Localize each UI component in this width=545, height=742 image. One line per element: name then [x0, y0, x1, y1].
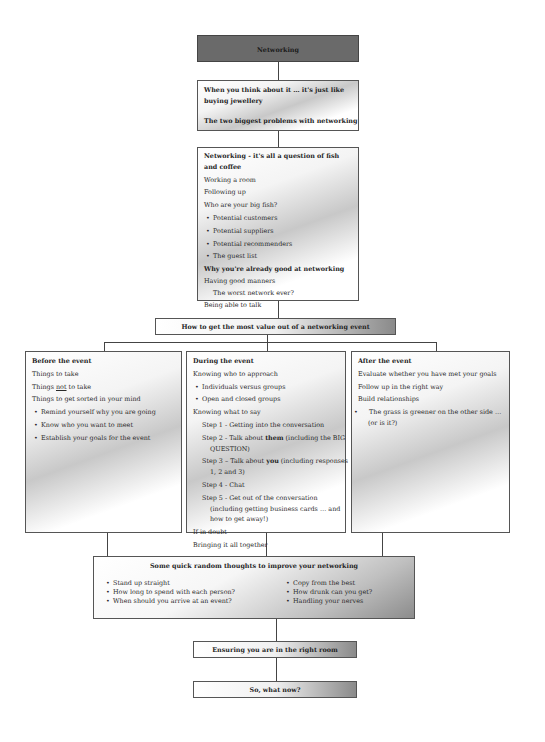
- connector-before-random: [107, 533, 108, 556]
- before-item-not-underlined: not: [56, 383, 67, 391]
- after-item: Evaluate whether you have met your goals: [358, 369, 505, 380]
- random-thoughts-box: Some quick random thoughts to improve yo…: [93, 556, 415, 619]
- after-bullet: The grass is greener on the other side ……: [358, 407, 508, 429]
- intro-box: When you think about it … it's just like…: [197, 80, 359, 131]
- before-bullet: Remind yourself why you are going: [32, 407, 177, 418]
- during-bullet: Open and closed groups: [193, 394, 341, 405]
- random-left-list: Stand up straight How long to spend with…: [104, 579, 235, 606]
- during-step-1: Step 1 - Getting into the conversation: [193, 420, 341, 431]
- right-room-box: Ensuring you are in the right room: [193, 641, 357, 658]
- after-item: Follow up in the right way: [358, 382, 505, 393]
- after-box: After the event Evaluate whether you hav…: [351, 351, 510, 533]
- value-event-box: How to get the most value out of a netwo…: [155, 318, 396, 335]
- before-bullet: Know who you want to meet: [32, 420, 177, 431]
- connector-random-room: [276, 619, 277, 641]
- fish-item: Having good manners: [204, 276, 354, 287]
- title-box: Networking: [197, 35, 359, 62]
- fish-item: Who are your big fish?: [204, 200, 354, 211]
- fish-box: Networking - it's all a question of fish…: [197, 147, 359, 301]
- fish-item: Working a room: [204, 175, 354, 186]
- fish-item: Following up: [204, 187, 354, 198]
- fish-bullet: The guest list: [204, 251, 354, 262]
- random-right-list: Copy from the best How drunk can you get…: [284, 579, 372, 606]
- random-bullet: When should you arrive at an event?: [104, 597, 235, 606]
- step-bold: them: [265, 434, 283, 442]
- value-event-label: How to get the most value out of a netwo…: [156, 322, 395, 333]
- during-together: Bringing it all together: [193, 540, 341, 551]
- connector-after-random: [382, 533, 383, 556]
- during-doubt: If in doubt: [193, 527, 341, 538]
- fish-bullet: Potential recommenders: [204, 239, 354, 250]
- random-bullet: Handling your nerves: [284, 597, 372, 606]
- before-item-part: to take: [69, 383, 91, 391]
- random-heading: Some quick random thoughts to improve yo…: [94, 561, 414, 572]
- during-box: During the event Knowing who to approach…: [186, 351, 346, 533]
- fish-heading: Networking - it's all a question of fish…: [204, 151, 352, 173]
- connector-branch-after: [436, 342, 437, 351]
- step-bold: you: [266, 457, 279, 465]
- fish-bullet: Potential suppliers: [204, 226, 354, 237]
- during-step-5: Step 5 - Get out of the conversation (in…: [193, 493, 350, 525]
- title-label: Networking: [198, 45, 358, 56]
- before-item-not: Things not to take: [32, 382, 177, 393]
- connector-value-branch: [267, 335, 268, 351]
- connector-title-intro: [278, 62, 279, 80]
- during-step-4: Step 4 - Chat: [193, 480, 341, 491]
- connector-branch-horizontal: [104, 342, 437, 343]
- during-bullet: Individuals versus groups: [193, 382, 341, 393]
- intro-problems: The two biggest problems with networking: [204, 116, 354, 127]
- before-bullet: Establish your goals for the event: [32, 433, 177, 444]
- fish-indented: The worst network ever?: [204, 288, 354, 299]
- random-bullet: How long to spend with each person?: [104, 588, 235, 597]
- before-item: Things to take: [32, 369, 177, 380]
- connector-branch-before: [104, 342, 105, 351]
- fish-last: Being able to talk: [204, 300, 354, 311]
- intro-jewellery: When you think about it … it's just like…: [204, 85, 349, 107]
- during-heading: During the event: [193, 356, 341, 367]
- connector-intro-fish: [278, 131, 279, 147]
- before-item-part: Things: [32, 383, 54, 391]
- after-item: Build relationships: [358, 394, 505, 405]
- during-step-2: Step 2 - Talk about them (including the …: [193, 433, 350, 455]
- during-say: Knowing what to say: [193, 407, 341, 418]
- step-text: Step 3 – Talk about: [202, 457, 266, 465]
- during-step-3: Step 3 – Talk about you (including respo…: [193, 456, 350, 478]
- before-box: Before the event Things to take Things n…: [25, 351, 182, 533]
- random-bullet: How drunk can you get?: [284, 588, 372, 597]
- before-item: Things to get sorted in your mind: [32, 394, 177, 405]
- fish-bullet: Potential customers: [204, 213, 354, 224]
- what-now-box: So, what now?: [193, 681, 357, 698]
- after-heading: After the event: [358, 356, 505, 367]
- connector-room-whatnow: [276, 658, 277, 681]
- step-text: Step 2 - Talk about: [202, 434, 265, 442]
- before-heading: Before the event: [32, 356, 177, 367]
- random-bullet: Copy from the best: [284, 579, 372, 588]
- right-room-label: Ensuring you are in the right room: [194, 645, 356, 656]
- what-now-label: So, what now?: [194, 685, 356, 696]
- fish-subheading: Why you're already good at networking: [204, 264, 354, 275]
- random-bullet: Stand up straight: [104, 579, 235, 588]
- during-approach: Knowing who to approach: [193, 369, 341, 380]
